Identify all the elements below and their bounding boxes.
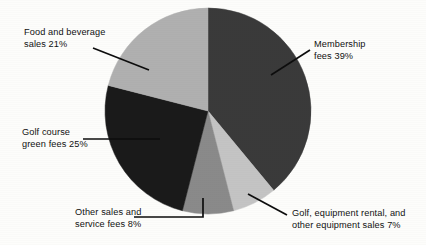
label-golf-course-green-fees: Golf course green fees 25%: [22, 126, 88, 151]
leader-line-golf-equipment-rental: [248, 194, 287, 215]
pie-chart-figure: Food and beverage sales 21% Golf course …: [0, 0, 426, 245]
label-food-and-beverage-sales: Food and beverage sales 21%: [24, 26, 105, 51]
pie-slices: [105, 8, 311, 214]
label-other-sales-service-fees: Other sales and service fees 8%: [75, 206, 141, 231]
label-membership-fees: Membership fees 39%: [314, 38, 366, 63]
label-golf-equipment-rental: Golf, equipment rental, and other equipm…: [292, 207, 406, 232]
